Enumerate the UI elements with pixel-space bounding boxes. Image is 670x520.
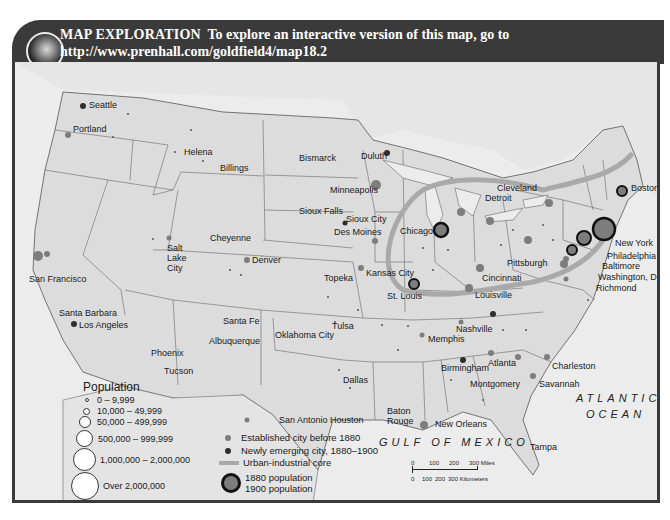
banner-url-link[interactable]: http://www.prenhall.com/goldfield4/map18…	[60, 43, 509, 60]
circle-icon	[83, 408, 90, 415]
city-labels: Seattle Portland Helena Billings Bismarc…	[12, 62, 660, 503]
city-label: Atlanta	[488, 358, 516, 368]
city-label: San Francisco	[29, 274, 87, 284]
city-label: Detroit	[485, 193, 512, 203]
city-label: Los Angeles	[79, 320, 128, 330]
population-class: 1,000,000 – 2,000,000	[73, 448, 190, 471]
scale-line	[412, 469, 477, 470]
city-label: New York	[615, 238, 653, 248]
gulf-of-mexico-label: GULF OF MEXICO	[379, 436, 529, 448]
city-label: Cleveland	[497, 183, 537, 193]
city-label: Montgomery	[470, 379, 520, 389]
circle-icon	[79, 416, 91, 428]
circle-icon	[73, 448, 96, 471]
city-label: Baltimore	[602, 261, 640, 271]
city-label: Minneapolis	[330, 185, 378, 195]
legend-established: Established city before 1880	[225, 432, 360, 443]
city-label: Cheyenne	[210, 233, 251, 243]
city-label: Louisville	[475, 290, 512, 300]
circle-icon	[76, 430, 93, 447]
city-label: Billings	[220, 163, 249, 173]
legend-emerging: Newly emerging city, 1880–1900	[225, 445, 378, 456]
city-label: Helena	[184, 147, 213, 157]
city-label: Phoenix	[151, 348, 184, 358]
banner-instruction: To explore an interactive version of thi…	[208, 27, 510, 42]
city-label: Albuquerque	[209, 336, 260, 346]
city-label: Charleston	[552, 361, 596, 371]
city-label: Dallas	[343, 375, 368, 385]
us-map: Seattle Portland Helena Billings Bismarc…	[12, 62, 660, 503]
legend-core: Urban-industrial core	[219, 457, 331, 468]
growth-circle-icon	[221, 473, 241, 493]
city-label: Baton Rouge	[387, 406, 413, 426]
city-label: Tampa	[530, 442, 557, 452]
city-label: Washington, D.C.	[598, 272, 660, 282]
circle-icon	[85, 398, 89, 402]
core-line-icon	[219, 461, 239, 465]
city-label: Birmingham	[441, 363, 489, 373]
city-label: Denver	[252, 255, 281, 265]
city-label: Sioux City	[346, 214, 387, 224]
city-label: Tucson	[164, 366, 193, 376]
atlantic-ocean-label: ATLANTIC	[576, 392, 660, 404]
city-label: Savannah	[539, 379, 580, 389]
population-class: 50,000 – 499,999	[79, 416, 167, 428]
city-label: Boston	[631, 183, 659, 193]
city-label: Pittsburgh	[507, 258, 548, 268]
city-label: New Orleans	[435, 419, 487, 429]
city-label: Portland	[73, 124, 107, 134]
city-label: Philadelphia	[607, 251, 656, 261]
population-class: 10,000 – 49,999	[83, 406, 162, 416]
city-label: Duluth	[361, 151, 387, 161]
population-class: Over 2,000,000	[71, 472, 165, 500]
city-label: Nashville	[456, 324, 493, 334]
city-label: Topeka	[324, 273, 353, 283]
population-legend-title: Population	[83, 380, 140, 394]
banner-label: MAP EXPLORATION	[60, 27, 201, 42]
city-label: Chicago	[400, 226, 433, 236]
banner-text: MAP EXPLORATION To explore an interactiv…	[60, 26, 509, 60]
gray-dot-icon	[225, 435, 231, 441]
city-label: Des Moines	[334, 227, 382, 237]
population-class: 0 – 9,999	[83, 395, 135, 405]
population-class: 500,000 – 999,999	[76, 430, 173, 447]
city-label: Santa Barbara	[59, 308, 117, 318]
city-label: San Antonio	[279, 415, 328, 425]
city-label: Santa Fe	[223, 316, 260, 326]
dark-dot-icon	[225, 448, 231, 454]
city-label: Houston	[330, 415, 364, 425]
city-label: Salt Lake City	[167, 243, 191, 273]
city-label: Cincinnati	[482, 273, 522, 283]
city-label: Bismarck	[299, 153, 336, 163]
city-label: Memphis	[428, 334, 465, 344]
city-label: Richmond	[596, 283, 637, 293]
city-label: Oklahoma City	[275, 330, 334, 340]
city-label: Kansas City	[366, 268, 414, 278]
legend-growth: 1880 population 1900 population	[221, 472, 313, 494]
city-label: Tulsa	[332, 321, 354, 331]
city-label: St. Louis	[387, 291, 422, 301]
city-label: Sioux Falls	[299, 206, 343, 216]
circle-icon	[71, 472, 99, 500]
atlantic-ocean-label-2: OCEAN	[586, 408, 645, 420]
city-label: Seattle	[89, 100, 117, 110]
